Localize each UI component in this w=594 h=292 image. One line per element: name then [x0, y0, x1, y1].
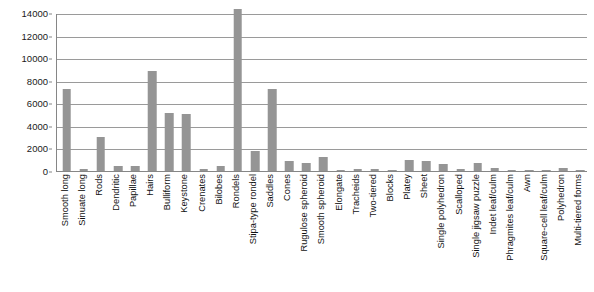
x-label-slot: Smooth spheroid — [314, 174, 331, 290]
bar-slot — [469, 14, 486, 171]
x-tick-label: Papillae — [129, 174, 138, 207]
x-label-slot: Rondels — [228, 174, 245, 290]
bar-slot — [452, 14, 469, 171]
x-label-slot: Dendritic — [108, 174, 125, 290]
x-tick-label: Awn — [523, 174, 532, 192]
bar — [182, 114, 191, 171]
bar — [456, 169, 465, 171]
bar-slot — [298, 14, 315, 171]
bar — [336, 170, 345, 171]
x-label-slot: Tracheids — [348, 174, 365, 290]
y-tick-label: 6000 — [27, 100, 48, 110]
x-tick-label: Stipa-type rondel — [249, 174, 258, 244]
x-label-slot: Crenates — [194, 174, 211, 290]
bar — [234, 9, 243, 172]
bar-slot — [366, 14, 383, 171]
x-tick-label: Rondels — [232, 174, 241, 208]
bar-slot — [315, 14, 332, 171]
x-tick-label: Bilobes — [215, 174, 224, 205]
y-axis: 02000400060008000100001200014000 — [0, 14, 52, 172]
bar-chart: 02000400060008000100001200014000 Smooth … — [0, 0, 594, 292]
bar — [165, 113, 174, 171]
y-tick-mark — [49, 104, 52, 105]
x-label-slot: Stipa-type rondel — [245, 174, 262, 290]
y-tick-label: 0 — [43, 167, 48, 177]
bar — [439, 164, 448, 171]
x-label-slot: Single jigsaw puzzle — [468, 174, 485, 290]
bar — [251, 151, 260, 171]
plot-area — [56, 14, 587, 172]
bar — [319, 157, 328, 171]
x-label-slot: Smooth long — [57, 174, 74, 290]
x-tick-label: Hairs — [147, 174, 156, 196]
bar — [62, 89, 71, 171]
bar-slot — [572, 14, 589, 171]
bar — [371, 169, 380, 171]
y-tick-label: 4000 — [27, 122, 48, 132]
x-tick-label: Rods — [95, 174, 104, 196]
bar — [473, 163, 482, 171]
bar — [388, 170, 397, 171]
bar-slot — [229, 14, 246, 171]
bar — [131, 166, 140, 171]
bar — [353, 169, 362, 171]
bar-slot — [503, 14, 520, 171]
x-tick-label: Platey — [403, 174, 412, 200]
x-tick-label: Smooth long — [61, 174, 70, 226]
bar-slot — [435, 14, 452, 171]
x-label-slot: Indet leaf/culm — [485, 174, 502, 290]
x-label-slot: Two-tiered — [365, 174, 382, 290]
bar-slot — [161, 14, 178, 171]
bar — [422, 161, 431, 171]
x-tick-label: Crenates — [198, 174, 207, 212]
bar — [405, 160, 414, 172]
y-tick-label: 8000 — [27, 77, 48, 87]
x-label-slot: Cones — [280, 174, 297, 290]
x-tick-label: Saddles — [266, 174, 275, 208]
x-tick-label: Blocks — [386, 174, 395, 201]
bar-slot — [109, 14, 126, 171]
bar-slot — [144, 14, 161, 171]
bar — [97, 137, 106, 171]
y-tick-label: 10000 — [22, 54, 48, 64]
bar-slot — [281, 14, 298, 171]
bar-slot — [246, 14, 263, 171]
y-tick-mark — [49, 81, 52, 82]
x-label-slot: Scalloped — [451, 174, 468, 290]
y-tick-mark — [49, 59, 52, 60]
x-tick-label: Scalloped — [455, 174, 464, 215]
bar-slot — [486, 14, 503, 171]
bar-slot — [58, 14, 75, 171]
bar — [491, 168, 500, 171]
bar-slot — [349, 14, 366, 171]
x-label-slot: Bilobes — [211, 174, 228, 290]
x-tick-label: Bulliform — [164, 174, 173, 210]
x-tick-label: Rugulose spheroid — [301, 174, 310, 252]
x-tick-label: Dendritic — [112, 174, 121, 211]
bar-slot — [127, 14, 144, 171]
x-label-slot: Square-cell leaf/culm — [537, 174, 554, 290]
x-tick-label: Indet leaf/culm — [489, 174, 498, 234]
x-label-slot: Phragmites leaf/culm — [502, 174, 519, 290]
x-tick-label: Multi-tiered forms — [575, 174, 584, 246]
x-label-slot: Multi-tiered forms — [571, 174, 588, 290]
x-tick-label: Phragmites leaf/culm — [506, 174, 515, 261]
x-label-slot: Bulliform — [160, 174, 177, 290]
x-label-slot: Elongate — [331, 174, 348, 290]
x-label-slot: Rugulose spheroid — [297, 174, 314, 290]
bar-slot — [555, 14, 572, 171]
x-tick-label: Single polyhedron — [438, 174, 447, 248]
bar-slot — [195, 14, 212, 171]
y-tick-label: 14000 — [22, 9, 48, 19]
x-tick-label: Polyhedron — [558, 174, 567, 221]
x-label-slot: Papillae — [126, 174, 143, 290]
bar — [199, 169, 208, 171]
bar — [542, 170, 551, 171]
x-label-slot: Sinuate long — [74, 174, 91, 290]
bar — [525, 170, 534, 171]
x-tick-label: Sinuate long — [78, 174, 87, 226]
x-tick-label: Cones — [284, 174, 293, 201]
bar-slot — [383, 14, 400, 171]
x-label-slot: Single polyhedron — [434, 174, 451, 290]
y-tick-mark — [49, 172, 52, 173]
